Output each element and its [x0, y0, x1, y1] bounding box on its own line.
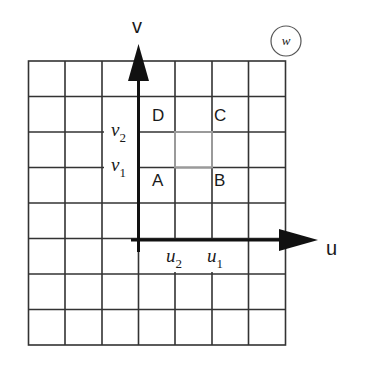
v-axis-arrowhead-icon	[128, 44, 149, 81]
vertical-axis	[128, 44, 149, 252]
point-label-a: A	[152, 171, 164, 190]
point-label-d: D	[152, 106, 164, 125]
panel-label-text: w	[282, 33, 291, 48]
coordinate-grid-diagram: v u v2 v1 u2 u1 D C A B w	[0, 0, 381, 372]
u-axis-arrowhead-icon	[279, 229, 318, 251]
point-label-b: B	[214, 171, 225, 190]
point-label-c: C	[214, 106, 226, 125]
panel-label-badge: w	[271, 26, 301, 56]
u-axis-label: u	[326, 237, 337, 259]
highlighted-square	[175, 132, 212, 168]
grid	[29, 61, 286, 345]
v-axis-label: v	[132, 15, 142, 37]
